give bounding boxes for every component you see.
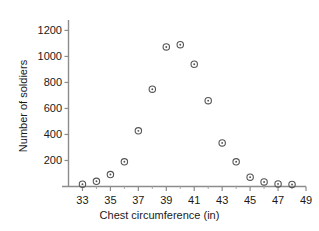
data-point-center-dot bbox=[207, 100, 209, 102]
data-point-center-dot bbox=[263, 181, 265, 183]
data-point-center-dot bbox=[151, 88, 153, 90]
data-point bbox=[93, 178, 99, 184]
x-tick-label: 41 bbox=[188, 194, 200, 206]
data-point bbox=[261, 179, 267, 185]
x-tick-label: 45 bbox=[244, 194, 256, 206]
data-point-center-dot bbox=[137, 130, 139, 132]
x-tick-label: 35 bbox=[104, 194, 116, 206]
data-point bbox=[163, 44, 169, 50]
data-point bbox=[149, 86, 155, 92]
data-point-center-dot bbox=[179, 44, 181, 46]
x-tick-label: 39 bbox=[160, 194, 172, 206]
data-point-center-dot bbox=[291, 183, 293, 185]
x-tick-label: 37 bbox=[132, 194, 144, 206]
data-point bbox=[107, 171, 113, 177]
data-point-center-dot bbox=[193, 63, 195, 65]
data-point bbox=[205, 97, 211, 103]
data-point-center-dot bbox=[249, 176, 251, 178]
data-point bbox=[177, 42, 183, 48]
data-point-center-dot bbox=[235, 161, 237, 163]
data-point-center-dot bbox=[165, 46, 167, 48]
data-point-center-dot bbox=[95, 180, 97, 182]
y-axis-title: Number of soldiers bbox=[17, 31, 29, 181]
x-tick-label: 43 bbox=[216, 194, 228, 206]
x-tick-label: 47 bbox=[272, 194, 284, 206]
x-axis-title: Chest circumference (in) bbox=[0, 209, 319, 221]
data-point-center-dot bbox=[82, 183, 84, 185]
data-point-markers bbox=[79, 42, 295, 188]
data-point bbox=[219, 140, 225, 146]
data-point bbox=[121, 159, 127, 165]
x-tick-label: 33 bbox=[76, 194, 88, 206]
x-tick-label: 49 bbox=[300, 194, 312, 206]
data-point bbox=[135, 128, 141, 134]
scatter-chart: 20040060080010001200 333537394143454749 … bbox=[0, 0, 319, 231]
data-point-center-dot bbox=[109, 174, 111, 176]
data-point-center-dot bbox=[277, 183, 279, 185]
data-point-center-dot bbox=[221, 142, 223, 144]
data-point bbox=[247, 174, 253, 180]
data-point bbox=[233, 159, 239, 165]
data-point bbox=[191, 61, 197, 67]
data-point-center-dot bbox=[123, 161, 125, 163]
